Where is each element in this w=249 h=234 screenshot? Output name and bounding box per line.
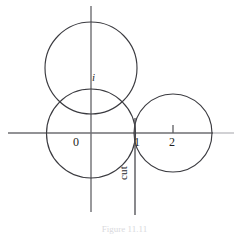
axis-label-imaginary-unit: i xyxy=(92,72,95,83)
axis-label-one: 1 xyxy=(134,136,140,148)
figure-caption: Figure 11.11 xyxy=(0,224,249,234)
complex-plane-figure xyxy=(0,0,249,234)
axis-label-zero: 0 xyxy=(73,136,79,148)
axis-label-two: 2 xyxy=(169,136,175,148)
branch-cut-label: cut xyxy=(118,166,129,180)
figure-container: 0 1 2 i cut Figure 11.11 xyxy=(0,0,249,234)
